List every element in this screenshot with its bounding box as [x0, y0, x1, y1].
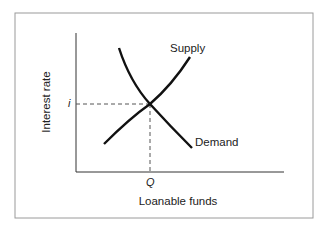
supply-label: Supply [170, 42, 205, 54]
chart-frame [15, 13, 313, 218]
y-axis-label: Interest rate [40, 71, 52, 132]
demand-label: Demand [195, 136, 238, 148]
x-tick-q: Q [146, 176, 155, 188]
supply-demand-chart: Supply Demand i Q Loanable funds Interes… [0, 0, 330, 229]
x-axis-label: Loanable funds [139, 195, 218, 207]
